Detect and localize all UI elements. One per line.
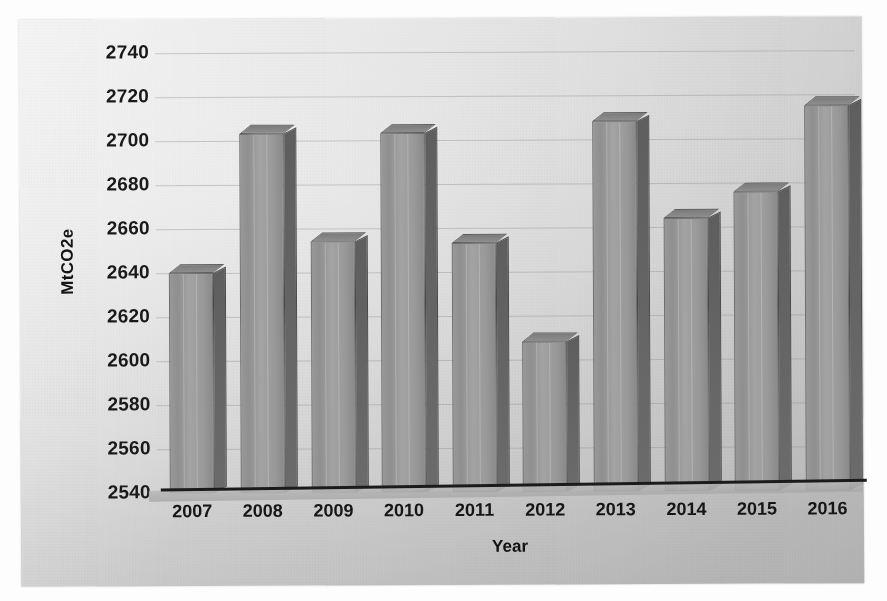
bar-highlight-line [818, 106, 821, 489]
bar-side-face [424, 127, 439, 492]
y-axis-tick-label: 2620 [72, 305, 150, 327]
bar-side-face [778, 185, 792, 491]
bar-column[interactable] [451, 243, 496, 492]
gridline [155, 50, 855, 54]
x-axis-title: Year [157, 535, 863, 558]
bar-side-face [354, 235, 368, 492]
bar-highlight-line [690, 219, 692, 490]
y-axis-tick-label: 2660 [72, 217, 150, 239]
bar-highlight-line [606, 123, 609, 491]
y-axis-tick-label: 2720 [71, 85, 149, 107]
y-axis-tick-label: 2700 [71, 129, 149, 151]
plot-area [155, 50, 857, 493]
bar-front-face [310, 242, 355, 493]
x-axis-tick-labels: 2007200820092010201120122013201420152016 [157, 498, 863, 529]
bar-column[interactable] [310, 242, 355, 493]
bar-highlight-line [677, 219, 679, 490]
y-axis-tick-label: 2740 [71, 41, 149, 63]
bar-side-face [707, 212, 721, 491]
bar-highlight-line [761, 192, 763, 489]
x-axis-tick-label: 2007 [157, 501, 228, 522]
y-axis-tick-label: 2680 [71, 173, 149, 195]
x-axis-tick-label: 2010 [369, 500, 440, 521]
y-axis-tick-label: 2600 [72, 349, 150, 371]
bar-highlight-line [536, 343, 538, 491]
bar-highlight-line [619, 123, 622, 491]
bar-column[interactable] [380, 133, 426, 492]
x-axis-tick-label: 2011 [439, 500, 510, 521]
y-axis-tick-label: 2560 [73, 437, 151, 459]
bar-column[interactable] [592, 122, 638, 492]
bar-highlight-line [549, 343, 551, 491]
y-axis-tick-labels: 2740272027002680266026402620260025802560… [59, 53, 151, 493]
x-axis-tick-label: 2008 [227, 501, 298, 522]
bar-front-face [522, 342, 567, 492]
bar-side-face [636, 115, 651, 491]
bar-side-face [848, 99, 863, 490]
gridline [155, 94, 855, 98]
bar-highlight-line [183, 274, 185, 492]
bar-front-face [169, 273, 214, 493]
y-axis-tick-label: 2540 [73, 481, 151, 503]
bar-side-face [283, 128, 298, 493]
chart-screenshot: MtCO2e 274027202700268026602640262026002… [0, 0, 887, 601]
bar-column[interactable] [663, 218, 708, 491]
bar-front-face [451, 243, 496, 492]
bar-column[interactable] [239, 134, 285, 493]
bar-column[interactable] [734, 191, 779, 490]
x-axis-tick-label: 2012 [510, 499, 581, 520]
bar-side-face [566, 335, 580, 491]
bar-highlight-line [196, 274, 198, 492]
bar-highlight-line [478, 244, 480, 491]
bar-highlight-line [266, 135, 269, 492]
bar-highlight-line [407, 135, 410, 492]
bar-column[interactable] [522, 342, 567, 492]
x-axis-tick-label: 2015 [722, 498, 793, 519]
x-axis-tick-label: 2009 [298, 500, 369, 521]
bar-front-face [380, 133, 426, 492]
bar-side-face [495, 237, 509, 492]
scanned-page: MtCO2e 274027202700268026602640262026002… [19, 16, 864, 587]
bar-highlight-line [748, 192, 750, 489]
bar-front-face [663, 218, 708, 491]
y-axis-tick-label: 2640 [72, 261, 150, 283]
bar-front-face [804, 105, 850, 490]
bar-front-face [734, 191, 779, 490]
bar-highlight-line [324, 243, 326, 492]
bar-highlight-line [465, 244, 467, 491]
bar-highlight-line [337, 243, 339, 492]
y-axis-tick-label: 2580 [72, 393, 150, 415]
bar-side-face [213, 267, 227, 493]
bar-column[interactable] [169, 273, 214, 493]
bar-highlight-line [831, 106, 834, 489]
bar-column[interactable] [804, 105, 850, 490]
x-axis-tick-label: 2016 [792, 498, 863, 519]
x-axis-tick-label: 2013 [580, 499, 651, 520]
bar-front-face [239, 134, 285, 493]
bar-highlight-line [394, 135, 397, 492]
axis-baseline [149, 482, 867, 499]
bar-highlight-line [253, 135, 256, 492]
bar-front-face [592, 122, 638, 492]
x-axis-tick-label: 2014 [651, 499, 722, 520]
